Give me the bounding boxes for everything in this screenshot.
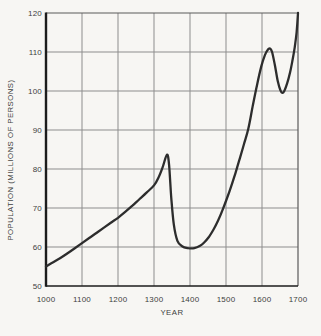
- y-tick-label: 110: [29, 48, 43, 57]
- x-tick-label: 1400: [181, 295, 200, 304]
- y-tick-label: 60: [33, 243, 43, 252]
- y-tick-label: 120: [28, 9, 42, 18]
- y-tick-label: 80: [33, 165, 43, 174]
- population-chart: 5060708090100110120 10001100120013001400…: [0, 0, 321, 336]
- y-axis-title: POPULATION (MILLIONS OF PERSONS): [6, 79, 15, 240]
- y-tick-label: 50: [33, 282, 43, 291]
- x-tick-label: 1300: [145, 295, 164, 304]
- y-tick-label: 90: [33, 126, 43, 135]
- x-tick-label: 1600: [253, 295, 272, 304]
- x-tick-label: 1000: [37, 295, 56, 304]
- x-tick-label: 1700: [289, 295, 308, 304]
- x-tick-label: 1500: [217, 295, 236, 304]
- x-axis-title: YEAR: [160, 308, 183, 317]
- y-tick-label: 100: [28, 87, 42, 96]
- chart-canvas: 5060708090100110120 10001100120013001400…: [0, 0, 321, 336]
- y-tick-label: 70: [33, 204, 43, 213]
- x-tick-label: 1100: [73, 295, 91, 304]
- x-tick-label: 1200: [109, 295, 128, 304]
